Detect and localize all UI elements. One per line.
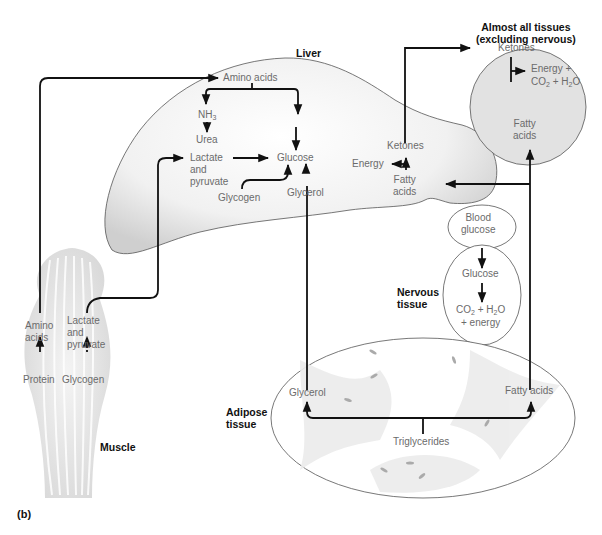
liver-title: Liver [296, 47, 321, 59]
blood-line2: glucose [461, 224, 495, 236]
tissues-co2-h2o: CO2 + H2O [531, 76, 580, 88]
nervous-o-text: O [497, 304, 505, 315]
liver-glucose: Glucose [277, 152, 314, 164]
tissues-fatty-line1: Fatty [513, 118, 536, 130]
muscle-title: Muscle [100, 441, 136, 453]
adipose-triglycerides: Triglycerides [393, 436, 449, 448]
muscle-amino-line1: Amino [25, 320, 53, 332]
liver-glycerol: Glycerol [287, 187, 324, 199]
muscle-lactate-line1: Lactate [67, 315, 105, 327]
h-text: + H [550, 76, 569, 87]
liver-urea: Urea [196, 134, 218, 146]
tissues-fatty-line2: acids [513, 130, 536, 142]
o-text: O [572, 76, 580, 87]
blood-line1: Blood [461, 212, 495, 224]
nh3-subscript: 3 [212, 114, 216, 121]
nervous-glucose: Glucose [462, 268, 499, 280]
liver-lactate-line2: and [190, 164, 228, 176]
liver-lactate-line3: pyruvate [190, 176, 228, 188]
nervous-title-line2: tissue [397, 298, 439, 310]
liver-lactate-line1: Lactate [190, 152, 228, 164]
tissues-title-line1: Almost all tissues [476, 21, 576, 33]
blood-glucose-label: Blood glucose [461, 212, 495, 236]
adipose-fatty-acids: Fatty acids [505, 385, 553, 397]
nervous-co2-h2o: CO2 + H2O [456, 304, 505, 316]
liver-glycogen: Glycogen [218, 192, 260, 204]
adipose-glycerol: Glycerol [289, 387, 326, 399]
liver-fatty-line1: Fatty [393, 174, 416, 186]
panel-label: (b) [17, 508, 31, 520]
muscle-amino-acids: Amino acids [25, 320, 53, 344]
liver-amino-acids: Amino acids [223, 72, 277, 84]
adipose-title-line1: Adipose [226, 406, 267, 418]
adipose-title: Adipose tissue [226, 406, 267, 430]
nervous-title: Nervous tissue [397, 286, 439, 310]
nervous-energy: + energy [461, 317, 500, 329]
tissues-energy-line1: Energy + [531, 63, 571, 75]
liver-lactate-pyruvate: Lactate and pyruvate [190, 152, 228, 188]
muscle-protein: Protein [23, 374, 55, 386]
tissues-fatty-acids: Fatty acids [513, 118, 536, 142]
nervous-h-text: + H [475, 304, 494, 315]
co2-text: CO [531, 76, 546, 87]
muscle-lactate-line3: pyruvate [67, 339, 105, 351]
nervous-title-line1: Nervous [397, 286, 439, 298]
nervous-co2-text: CO [456, 304, 471, 315]
muscle-lactate-pyruvate: Lactate and pyruvate [67, 315, 105, 351]
liver-energy: Energy [352, 158, 384, 170]
muscle-amino-line2: acids [25, 332, 53, 344]
muscle-organ [24, 248, 110, 498]
liver-fatty-acids: Fatty acids [393, 174, 416, 198]
metabolism-diagram-graphics [0, 0, 602, 535]
liver-ketones: Ketones [387, 140, 424, 152]
adipose-title-line2: tissue [226, 418, 267, 430]
nh3-text: NH [198, 109, 212, 120]
liver-nh3: NH3 [198, 109, 216, 121]
liver-fatty-line2: acids [393, 186, 416, 198]
muscle-lactate-line2: and [67, 327, 105, 339]
tissues-ketones: Ketones [498, 42, 535, 54]
muscle-glycogen: Glycogen [62, 374, 104, 386]
